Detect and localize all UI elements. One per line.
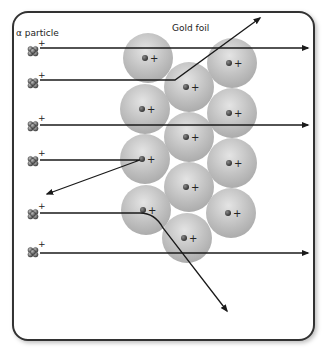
- nucleus-charge: +: [234, 58, 242, 69]
- alpha-particle-label: α particle: [16, 28, 59, 38]
- alpha-charge: +: [38, 113, 46, 123]
- nucleus-icon: [183, 134, 189, 140]
- alpha-charge: +: [38, 70, 46, 80]
- nucleus-icon: [181, 235, 187, 241]
- gold-foil-diagram: ++++++++++++ ++++++: [0, 0, 328, 348]
- nucleus-icon: [226, 110, 232, 116]
- gold-atom: +: [120, 84, 170, 134]
- gold-atom: +: [121, 185, 171, 235]
- nucleus-charge: +: [234, 158, 242, 169]
- nucleus-icon: [142, 55, 148, 61]
- nucleus-icon: [139, 106, 145, 112]
- gold-atom: +: [123, 33, 173, 83]
- gold-atoms: ++++++++++++: [120, 33, 257, 263]
- nucleus-icon: [140, 207, 146, 213]
- nucleus-icon: [226, 60, 232, 66]
- nucleus-icon: [226, 160, 232, 166]
- gold-atom: +: [206, 188, 256, 238]
- nucleus-charge: +: [150, 53, 158, 64]
- nucleus-icon: [225, 210, 231, 216]
- gold-atom: +: [164, 112, 214, 162]
- nucleus-charge: +: [234, 108, 242, 119]
- nucleus-charge: +: [191, 132, 199, 143]
- diagram: ++++++++++++ ++++++ α particle Gold foil: [0, 0, 328, 348]
- nucleus-icon: [183, 84, 189, 90]
- alpha-charge: +: [38, 148, 46, 158]
- gold-atom: +: [120, 134, 170, 184]
- nucleus-icon: [139, 156, 145, 162]
- gold-atom: +: [164, 162, 214, 212]
- nucleus-icon: [183, 184, 189, 190]
- nucleus-charge: +: [148, 205, 156, 216]
- nucleus-charge: +: [233, 208, 241, 219]
- gold-atom: +: [162, 213, 212, 263]
- nucleus-charge: +: [191, 182, 199, 193]
- alpha-charge: +: [38, 201, 46, 211]
- nucleus-charge: +: [189, 233, 197, 244]
- gold-atom: +: [207, 38, 257, 88]
- alpha-charge: +: [38, 38, 46, 48]
- gold-foil-label: Gold foil: [172, 23, 209, 33]
- nucleus-charge: +: [147, 104, 155, 115]
- gold-atom: +: [207, 138, 257, 188]
- nucleus-charge: +: [191, 82, 199, 93]
- nucleus-charge: +: [147, 154, 155, 165]
- gold-atom: +: [207, 88, 257, 138]
- alpha-charge: +: [38, 239, 46, 249]
